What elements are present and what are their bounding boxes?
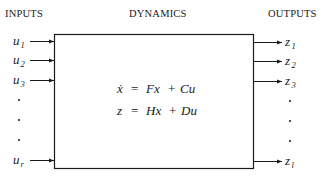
svg-text:+: +	[168, 81, 175, 96]
dynamics-box	[55, 35, 254, 169]
input-ellipsis	[18, 99, 20, 141]
inputs-header: INPUTS	[5, 8, 43, 19]
input-ur: u r	[13, 152, 54, 169]
input-u2: u 2	[13, 52, 54, 69]
svg-text:3: 3	[291, 80, 296, 90]
svg-text:ẋ: ẋ	[116, 81, 123, 96]
system-block-diagram: INPUTS DYNAMICS OUTPUTS u 1 u 2 u 3 u r …	[0, 0, 321, 178]
state-equation: ẋ = Fx + Cu	[116, 81, 196, 96]
output-z2: z 2	[254, 53, 297, 70]
svg-text:2: 2	[21, 59, 26, 69]
svg-text:Hx: Hx	[145, 103, 161, 118]
svg-text:u: u	[13, 72, 20, 87]
output-z3: z 3	[254, 73, 296, 90]
svg-text:z: z	[284, 34, 290, 49]
svg-text:3: 3	[20, 79, 25, 89]
svg-text:1: 1	[21, 40, 25, 50]
svg-text:Du: Du	[180, 103, 197, 118]
input-u3: u 3	[13, 72, 54, 89]
output-ellipsis	[289, 100, 291, 142]
svg-text:u: u	[13, 33, 20, 48]
output-zl: z l	[254, 153, 295, 170]
svg-text:z: z	[284, 153, 290, 168]
svg-text:z: z	[116, 103, 122, 118]
outputs-header: OUTPUTS	[268, 8, 317, 19]
svg-text:l: l	[292, 160, 295, 170]
svg-text:u: u	[13, 52, 20, 67]
dynamics-header: DYNAMICS	[129, 8, 187, 19]
svg-text:z: z	[284, 53, 290, 68]
output-z1: z 1	[254, 34, 296, 51]
svg-text:r: r	[21, 159, 25, 169]
svg-text:=: =	[131, 103, 138, 118]
svg-text:u: u	[13, 152, 20, 167]
svg-text:=: =	[131, 81, 138, 96]
svg-text:1: 1	[292, 41, 296, 51]
svg-text:Fx: Fx	[145, 81, 160, 96]
svg-text:Cu: Cu	[180, 81, 196, 96]
svg-text:2: 2	[292, 60, 297, 70]
input-u1: u 1	[13, 33, 54, 50]
svg-text:+: +	[169, 103, 176, 118]
svg-text:z: z	[284, 73, 290, 88]
output-equation: z = Hx + Du	[116, 103, 197, 118]
